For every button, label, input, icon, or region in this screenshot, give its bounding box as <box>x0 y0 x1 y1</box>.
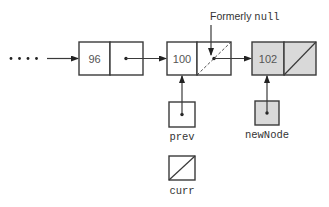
newnode-reference: newNode <box>245 76 289 141</box>
node-100-value: 100 <box>173 53 191 65</box>
linked-list-diagram: 96 100 Formerly null 102 prev curr <box>0 0 329 207</box>
newnode-label: newNode <box>245 129 289 141</box>
curr-reference: curr <box>169 156 195 197</box>
node-102-value: 102 <box>259 53 277 65</box>
prev-reference: prev <box>169 76 195 143</box>
node-102: 102 <box>252 42 316 75</box>
curr-label: curr <box>169 185 194 197</box>
formerly-null-label: Formerly null <box>210 10 280 23</box>
prev-label: prev <box>169 131 194 143</box>
node-96-value: 96 <box>88 53 100 65</box>
ellipsis-dots <box>10 57 38 60</box>
